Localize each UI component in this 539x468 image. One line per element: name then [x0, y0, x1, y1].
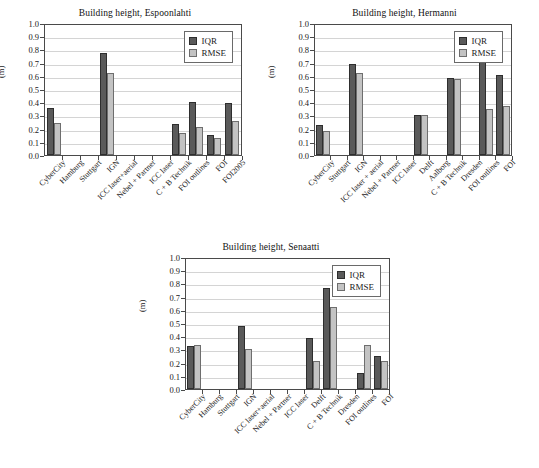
y-axis: 1.00.90.80.70.60.50.40.30.20.10.0	[131, 258, 185, 390]
bar-category	[220, 259, 237, 389]
bar-rmse	[179, 133, 186, 155]
y-tick-label: 0.9	[28, 33, 39, 42]
bar-category	[413, 25, 429, 155]
y-axis: 1.00.90.80.70.60.50.40.30.20.10.0	[270, 24, 314, 156]
y-tick-label: 0.5	[298, 86, 309, 95]
legend-swatch-iqr-icon	[337, 271, 345, 279]
bar-category	[364, 25, 380, 155]
bar-category	[380, 25, 396, 155]
bar-iqr	[447, 78, 454, 155]
y-tick-label: 0.6	[28, 72, 39, 81]
legend: IQR RMSE	[454, 31, 503, 63]
bar-iqr	[306, 338, 313, 389]
bar-category	[254, 259, 271, 389]
bar-rmse	[214, 138, 221, 155]
bar-category	[98, 25, 116, 155]
bar-rmse	[364, 345, 371, 389]
legend-item-rmse: RMSE	[337, 281, 374, 293]
legend-label-iqr: IQR	[471, 36, 487, 46]
bar-category	[134, 25, 152, 155]
y-axis-label: (m)	[0, 66, 6, 78]
bar-category	[348, 25, 364, 155]
y-tick-label: 0.3	[28, 112, 39, 121]
y-tick-label: 0.2	[28, 125, 39, 134]
chart-title: Building height, Espoonlahti	[0, 8, 270, 19]
legend: IQR RMSE	[184, 31, 233, 63]
plot-area: IQR RMSE	[314, 24, 512, 156]
bar-rmse	[454, 79, 461, 155]
y-tick-label: 0.3	[298, 112, 309, 121]
bar-category	[237, 259, 254, 389]
legend-label-iqr: IQR	[201, 36, 217, 46]
legend-swatch-rmse-icon	[459, 49, 467, 57]
legend-item-iqr: IQR	[337, 269, 374, 281]
y-tick-label: 0.1	[169, 372, 180, 381]
y-tick-label: 0.8	[169, 280, 180, 289]
y-tick-label: 0.9	[169, 267, 180, 276]
bar-rmse	[107, 73, 114, 155]
y-tick-label: 0.2	[298, 125, 309, 134]
x-axis-labels: CyberCityStuttgartIGNICC laser + aerialN…	[314, 158, 512, 232]
bar-iqr	[479, 61, 486, 155]
y-tick-label: 1.0	[28, 20, 39, 29]
y-tick-label: 0.0	[28, 152, 39, 161]
bar-rmse	[356, 73, 363, 156]
plot-area: IQR RMSE	[44, 24, 242, 156]
y-tick-label: 0.7	[28, 59, 39, 68]
bar-iqr	[225, 103, 232, 155]
bar-iqr	[374, 356, 381, 389]
y-tick-label: 0.4	[169, 333, 180, 342]
bar-category	[429, 25, 445, 155]
bar-iqr	[47, 108, 54, 155]
bar-rmse	[54, 123, 61, 155]
y-tick-label: 0.4	[28, 99, 39, 108]
legend: IQR RMSE	[332, 265, 381, 297]
bar-iqr	[238, 326, 245, 389]
bar-rmse	[313, 361, 320, 389]
y-tick-label: 0.5	[28, 86, 39, 95]
bar-category	[304, 259, 321, 389]
y-tick-label: 0.7	[298, 59, 309, 68]
chart-panel-hermanni: Building height, Hermanni 1.00.90.80.70.…	[270, 0, 539, 234]
bar-category	[288, 259, 305, 389]
chart-title: Building height, Hermanni	[270, 8, 539, 19]
bar-category	[203, 259, 220, 389]
y-tick-label: 0.1	[298, 138, 309, 147]
y-tick-label: 0.5	[169, 320, 180, 329]
bar-rmse	[194, 345, 201, 389]
legend-label-rmse: RMSE	[471, 48, 496, 58]
x-axis-labels: CyberCityHamburgStuttgartIGNICC laser+ae…	[44, 158, 242, 232]
bar-category	[271, 259, 288, 389]
bar-iqr	[349, 64, 356, 155]
bar-iqr	[189, 102, 196, 155]
legend-item-rmse: RMSE	[189, 47, 226, 59]
bar-rmse	[503, 106, 510, 156]
bar-category	[397, 25, 413, 155]
x-axis-labels: CyberCityHamburgStuttgartIGNICC laser+ae…	[185, 392, 390, 466]
y-tick-label: 1.0	[298, 20, 309, 29]
bar-category	[63, 25, 81, 155]
bar-rmse	[421, 115, 428, 155]
legend-label-rmse: RMSE	[349, 282, 374, 292]
y-tick-label: 0.0	[298, 152, 309, 161]
y-tick-label: 0.6	[298, 72, 309, 81]
bar-rmse	[330, 307, 337, 390]
bar-rmse	[381, 361, 388, 389]
legend-swatch-rmse-icon	[337, 283, 345, 291]
y-tick-label: 0.6	[169, 306, 180, 315]
legend-label-rmse: RMSE	[201, 48, 226, 58]
legend-item-rmse: RMSE	[459, 47, 496, 59]
bar-category	[45, 25, 63, 155]
y-tick-label: 0.1	[28, 138, 39, 147]
y-tick-label: 0.8	[28, 46, 39, 55]
chart-panel-espoonlahti: Building height, Espoonlahti 1.00.90.80.…	[0, 0, 270, 234]
y-tick-label: 0.4	[298, 99, 309, 108]
y-tick-label: 0.2	[169, 359, 180, 368]
legend-label-iqr: IQR	[349, 270, 365, 280]
bar-rmse	[486, 109, 493, 155]
y-tick-label: 0.3	[169, 346, 180, 355]
x-tick-label: FOI	[502, 158, 517, 173]
legend-swatch-iqr-icon	[459, 37, 467, 45]
bar-category	[331, 25, 347, 155]
y-tick-label: 0.0	[169, 386, 180, 395]
